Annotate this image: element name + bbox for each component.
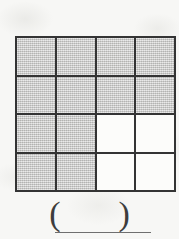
answer-blank[interactable] — [61, 201, 119, 227]
grid-cell-r2c3[interactable] — [97, 77, 135, 114]
grid-cell-r2c1[interactable] — [17, 77, 55, 114]
open-paren: ( — [49, 197, 60, 231]
answer-underline — [55, 232, 151, 233]
grid-cell-r3c1[interactable] — [17, 115, 55, 152]
grid-cell-r1c3[interactable] — [97, 38, 135, 75]
shaded-grid — [15, 36, 176, 192]
answer-row: ( ) — [0, 196, 179, 232]
grid-cell-r4c1[interactable] — [17, 154, 55, 191]
grid-cell-r2c2[interactable] — [57, 77, 95, 114]
grid-cell-r1c4[interactable] — [136, 38, 174, 75]
grid-cell-r4c3[interactable] — [97, 154, 135, 191]
fraction-figure: ( ) — [0, 0, 179, 239]
grid-cell-r4c4[interactable] — [136, 154, 174, 191]
grid-cell-r3c2[interactable] — [57, 115, 95, 152]
grid-cell-r3c3[interactable] — [97, 115, 135, 152]
grid-cell-r1c1[interactable] — [17, 38, 55, 75]
grid-cell-r4c2[interactable] — [57, 154, 95, 191]
grid-cell-r3c4[interactable] — [136, 115, 174, 152]
close-paren: ) — [119, 197, 130, 231]
grid-cell-r1c2[interactable] — [57, 38, 95, 75]
grid-cell-r2c4[interactable] — [136, 77, 174, 114]
